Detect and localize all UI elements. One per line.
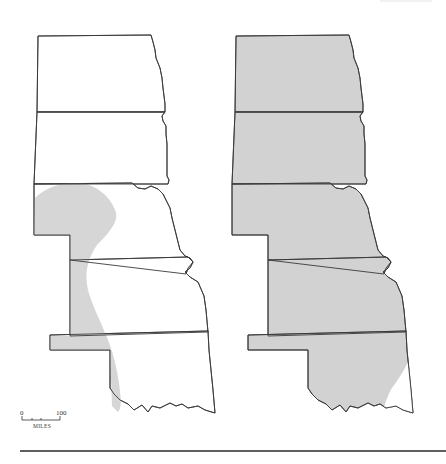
scale-bar: 0 100 MILES — [20, 409, 67, 429]
map-panel-right — [232, 35, 413, 413]
map-panel-left — [34, 35, 215, 413]
scale-unit-label: MILES — [33, 423, 51, 429]
range-map-figure: 0 100 MILES — [0, 0, 446, 464]
scale-end-label: 100 — [56, 409, 67, 417]
scale-start-label: 0 — [20, 409, 24, 417]
